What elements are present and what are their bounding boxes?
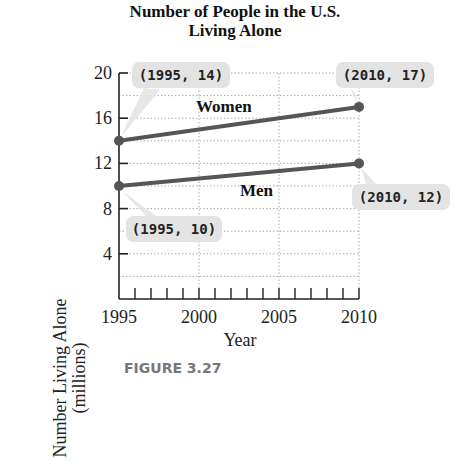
y-tick-label: 12 [94, 153, 112, 173]
callout-label: (1995, 10) [132, 221, 216, 237]
x-tick-label: 2010 [341, 307, 377, 327]
x-axis-label: Year [200, 330, 280, 351]
y-tick-label: 8 [103, 199, 112, 219]
y-tick-label: 16 [94, 108, 112, 128]
series-label-women: Women [196, 97, 252, 116]
callouts: (1995, 14)(2010, 17)(1995, 10)(2010, 12) [121, 62, 450, 242]
y-tick-label: 20 [94, 63, 112, 83]
callout-label: (2010, 12) [359, 189, 443, 205]
series-label-men: Men [240, 181, 274, 200]
callout-pointer [361, 167, 376, 184]
y-tick-label: 4 [103, 244, 112, 264]
data-point [114, 136, 124, 146]
callout-men-2010: (2010, 12) [352, 167, 450, 210]
series-line-men [119, 163, 359, 186]
callout-pointer [121, 190, 156, 216]
callout-label: (1995, 14) [139, 67, 223, 83]
x-tick-label: 2005 [261, 307, 297, 327]
figure-caption: FIGURE 3.27 [124, 360, 221, 376]
data-point [354, 158, 364, 168]
series-lines: WomenMen [114, 97, 364, 200]
callout-label: (2010, 17) [343, 67, 427, 83]
x-tick-label: 2000 [181, 307, 217, 327]
callout-women-2010: (2010, 17) [336, 62, 434, 103]
callout-men-1995: (1995, 10) [121, 190, 222, 242]
data-point [354, 102, 364, 112]
x-tick-label: 1995 [101, 307, 137, 327]
data-point [114, 181, 124, 191]
